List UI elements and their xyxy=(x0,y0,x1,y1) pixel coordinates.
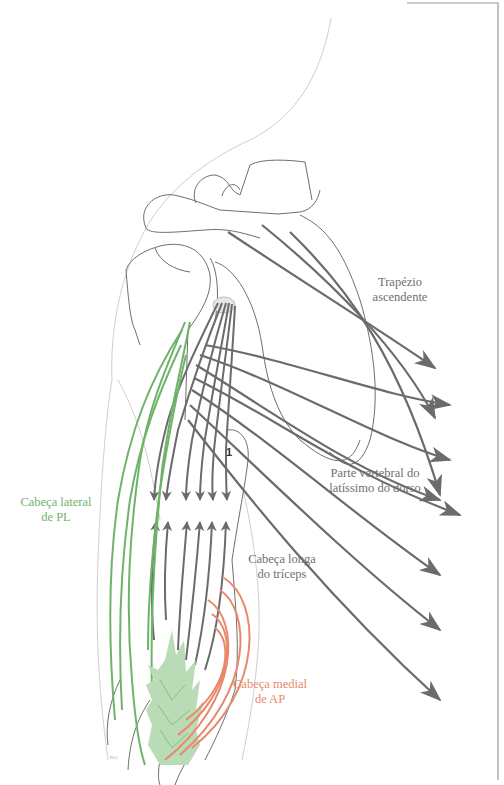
artist-signature: PLC xyxy=(110,755,118,760)
label-trapezius: Trapézio ascendente xyxy=(350,275,450,305)
label-lateral-head: Cabeça lateral de PL xyxy=(6,495,106,525)
label-latissimus: Parte vertebral do latíssimo do dorso xyxy=(315,466,435,496)
label-medial-head: Cabeça medial de AP xyxy=(220,677,320,707)
long-head-lower-fibers xyxy=(152,522,226,670)
anatomy-drawing xyxy=(0,0,504,785)
marker-1: 1 xyxy=(226,446,232,458)
long-head-fibers xyxy=(154,303,235,500)
label-long-head: Cabeça longa do tríceps xyxy=(232,552,332,582)
trapezius-arrows xyxy=(228,225,440,495)
anatomy-figure: Trapézio ascendente Parte vertebral do l… xyxy=(0,0,504,785)
